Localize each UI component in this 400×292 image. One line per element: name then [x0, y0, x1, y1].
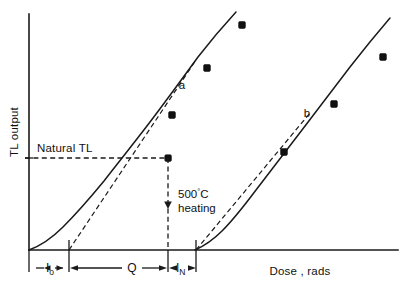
curve-b-label: b: [304, 107, 310, 119]
curve-b-data-point: [380, 54, 387, 61]
curve-b-data-point: [331, 101, 338, 108]
natural-tl-label: Natural TL: [37, 142, 93, 154]
segment-label-in: IN: [176, 261, 185, 277]
segment-label-i0: Io: [46, 261, 54, 277]
heating-arrow-group: [164, 158, 172, 250]
segment-label-in-subscript: N: [179, 267, 185, 277]
curve-a-group: [29, 12, 245, 250]
curve-a-path: [29, 12, 236, 250]
curve-a-data-point: [169, 112, 176, 119]
segment-arrow-q-right: [159, 265, 167, 270]
heating-value: 500: [178, 188, 197, 200]
curve-b-tangent-extrapolation: [196, 113, 310, 250]
y-axis-label: TL output: [8, 106, 20, 157]
curve-a-data-point: [239, 22, 246, 29]
heating-label-line1: 500°C: [178, 187, 209, 200]
axes-group: [29, 14, 398, 250]
x-axis-label: Dose , rads: [269, 265, 330, 277]
segment-label-q: Q: [127, 261, 136, 275]
curve-b-data-point: [281, 149, 288, 156]
curve-b-group: [195, 18, 390, 250]
heating-label-line2: heating: [178, 202, 216, 214]
tl-growth-curve-figure: TL output Dose , rads Natural TL a b 500…: [0, 0, 400, 292]
curve-a-data-point: [204, 65, 211, 72]
heating-arrow-head: [164, 202, 172, 210]
segment-arrow-in-right: [188, 265, 196, 270]
segment-label-i0-subscript: o: [49, 267, 54, 277]
curve-a-tangent-extrapolation: [69, 60, 196, 250]
curve-a-label: a: [179, 79, 186, 91]
segment-arrow-q-left: [70, 265, 78, 270]
chart-canvas: TL output Dose , rads Natural TL a b 500…: [0, 0, 400, 292]
heating-unit: C: [200, 188, 208, 200]
heating-label-group: 500°C heating: [178, 187, 216, 214]
